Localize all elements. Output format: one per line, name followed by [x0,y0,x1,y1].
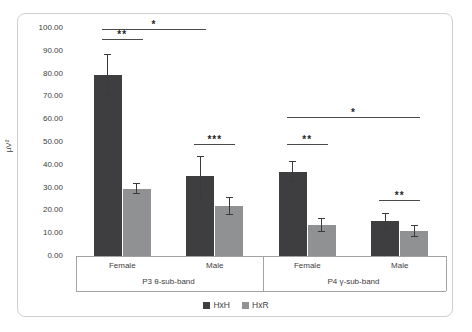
legend-swatch [203,302,210,309]
category-label: Male [169,261,262,270]
group-label: P4 γ-sub-band [261,277,446,286]
legend-item-hxr: HxR [242,300,269,310]
chart-frame: µV² 0.0010.0020.0030.0040.0050.0060.0070… [17,13,453,317]
group-label: P3 θ-sub-band [76,277,261,286]
legend-label: HxR [252,300,269,310]
category-label: Male [354,261,447,270]
category-axis: FemaleMaleP3 θ-sub-bandFemaleMaleP4 γ-su… [18,14,452,316]
axis-box-divider [446,256,447,291]
page: { "chart_data": { "type": "bar", "title"… [0,0,472,332]
axis-box-bottom [76,291,446,292]
legend-label: HxH [213,300,230,310]
legend-item-hxh: HxH [203,300,230,310]
x-axis-line [76,256,446,257]
legend-swatch [242,302,249,309]
category-label: Female [76,261,169,270]
category-label: Female [261,261,354,270]
legend: HxHHxR [18,298,454,312]
